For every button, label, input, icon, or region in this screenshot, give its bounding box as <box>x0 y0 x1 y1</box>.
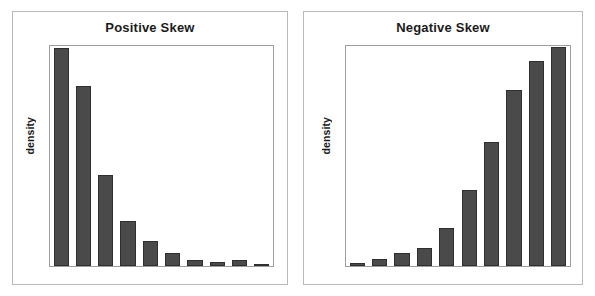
negative-skew-slot <box>503 46 525 266</box>
positive-skew-bar <box>254 264 269 266</box>
panel-title-negative-skew: Negative Skew <box>304 21 582 35</box>
negative-skew-slot <box>436 46 458 266</box>
positive-skew-slot <box>50 46 72 266</box>
panel-positive-skew: Positive Skew density <box>12 11 288 285</box>
plot-area-positive-skew <box>49 45 274 267</box>
positive-skew-slot <box>72 46 94 266</box>
negative-skew-slot <box>458 46 480 266</box>
negative-skew-slot <box>346 46 368 266</box>
negative-skew-bar <box>484 142 499 266</box>
negative-skew-slot <box>391 46 413 266</box>
y-axis-label-positive-skew: density <box>24 117 36 154</box>
negative-skew-slot <box>548 46 570 266</box>
positive-skew-slot <box>161 46 183 266</box>
positive-skew-bar <box>143 241 158 266</box>
negative-skew-bar <box>372 259 387 266</box>
negative-skew-bar <box>529 61 544 266</box>
negative-skew-bar <box>350 263 365 266</box>
negative-skew-bar <box>506 90 521 266</box>
positive-skew-bar <box>165 253 180 266</box>
positive-skew-slot <box>184 46 206 266</box>
positive-skew-slot <box>95 46 117 266</box>
negative-skew-slot <box>368 46 390 266</box>
negative-skew-bar <box>439 228 454 267</box>
panel-negative-skew: Negative Skew density <box>303 11 583 285</box>
bar-series-positive-skew <box>50 46 273 266</box>
negative-skew-bar <box>462 190 477 266</box>
positive-skew-slot <box>251 46 273 266</box>
positive-skew-slot <box>228 46 250 266</box>
y-axis-label-negative-skew: density <box>320 117 332 154</box>
positive-skew-bar <box>210 262 225 266</box>
positive-skew-bar <box>232 260 247 266</box>
positive-skew-slot <box>206 46 228 266</box>
positive-skew-bar <box>187 260 202 266</box>
positive-skew-bar <box>54 48 69 266</box>
plot-area-negative-skew <box>345 45 571 267</box>
bar-series-negative-skew <box>346 46 570 266</box>
positive-skew-bar <box>120 221 135 266</box>
positive-skew-slot <box>139 46 161 266</box>
panel-title-positive-skew: Positive Skew <box>13 21 287 35</box>
negative-skew-bar <box>394 253 409 266</box>
positive-skew-bar <box>76 86 91 266</box>
positive-skew-slot <box>117 46 139 266</box>
negative-skew-slot <box>525 46 547 266</box>
negative-skew-slot <box>413 46 435 266</box>
figure-root: Positive Skew density Negative Skew dens… <box>0 0 595 296</box>
positive-skew-bar <box>98 175 113 266</box>
negative-skew-slot <box>480 46 502 266</box>
negative-skew-bar <box>551 47 566 266</box>
negative-skew-bar <box>417 248 432 266</box>
